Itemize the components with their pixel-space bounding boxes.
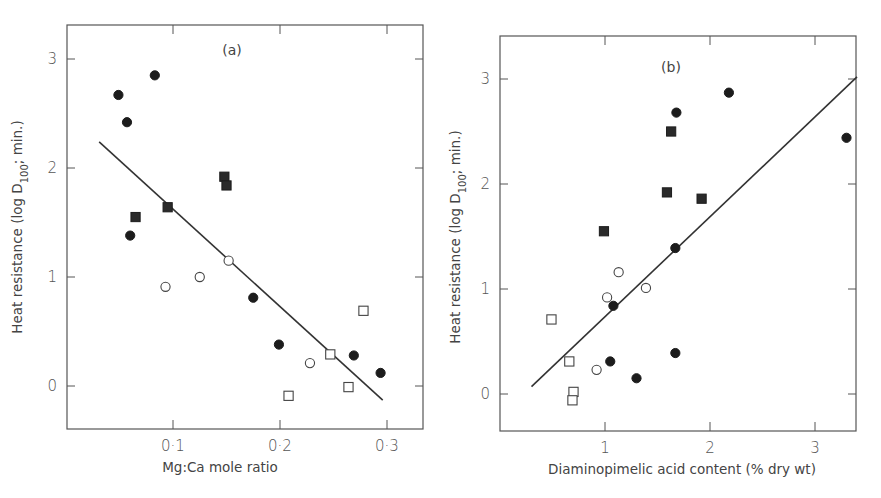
chart-panel-a: 0·10·20·30123(a)Mg:Ca mole ratioHeat res…: [9, 25, 423, 475]
open-square-marker: [284, 391, 293, 400]
y-tick-label: 3: [47, 50, 57, 68]
open-circle-marker: [224, 256, 233, 265]
filled-circle-marker: [376, 368, 385, 377]
x-tick-label: 0·2: [268, 437, 292, 455]
filled-circle-marker: [122, 118, 131, 127]
filled-circle-marker: [842, 133, 851, 142]
filled-square-marker: [662, 188, 671, 197]
open-square-marker: [565, 357, 574, 366]
plot-frame: [500, 36, 856, 431]
open-circle-marker: [614, 268, 623, 277]
filled-circle-marker: [249, 293, 258, 302]
open-square-marker: [359, 306, 368, 315]
filled-square-marker: [163, 203, 172, 212]
x-tick-label: 2: [705, 439, 715, 457]
y-tick-label: 1: [480, 280, 490, 298]
filled-circle-marker: [671, 243, 680, 252]
panel-label: (b): [661, 59, 681, 75]
y-tick-label: 0: [47, 377, 57, 395]
open-square-marker: [547, 315, 556, 324]
open-square-marker: [344, 382, 353, 391]
filled-square-marker: [131, 212, 140, 221]
chart-panel-b: 1230123(b)Diaminopimelic acid content (%…: [447, 36, 857, 477]
filled-circle-marker: [349, 351, 358, 360]
filled-circle-marker: [724, 88, 733, 97]
filled-circle-marker: [606, 357, 615, 366]
figure: 0·10·20·30123(a)Mg:Ca mole ratioHeat res…: [0, 0, 881, 498]
y-tick-label: 3: [480, 70, 490, 88]
x-axis-label: Mg:Ca mole ratio: [162, 459, 278, 475]
filled-square-marker: [599, 227, 608, 236]
filled-circle-marker: [274, 340, 283, 349]
y-axis-label: Heat resistance (log D100; min.): [9, 120, 30, 333]
y-tick-label: 2: [47, 159, 57, 177]
y-tick-label: 2: [480, 175, 490, 193]
open-square-marker: [326, 350, 335, 359]
open-circle-marker: [195, 272, 204, 281]
x-axis-label: Diaminopimelic acid content (% dry wt): [548, 461, 816, 477]
filled-square-marker: [697, 194, 706, 203]
filled-square-marker: [222, 181, 231, 190]
filled-circle-marker: [126, 231, 135, 240]
filled-circle-marker: [671, 348, 680, 357]
plot-frame: [67, 25, 423, 429]
open-circle-marker: [305, 359, 314, 368]
y-axis-label: Heat resistance (log D100; min.): [447, 130, 468, 343]
filled-circle-marker: [114, 90, 123, 99]
y-tick-label: 1: [47, 268, 57, 286]
panel-label: (a): [222, 42, 242, 58]
x-tick-label: 0·3: [375, 437, 399, 455]
open-circle-marker: [161, 282, 170, 291]
y-tick-label: 0: [480, 385, 490, 403]
filled-square-marker: [220, 172, 229, 181]
filled-circle-marker: [632, 374, 641, 383]
regression-line: [99, 142, 383, 400]
open-circle-marker: [641, 283, 650, 292]
regression-line: [532, 77, 858, 387]
filled-circle-marker: [150, 71, 159, 80]
x-tick-label: 0·1: [161, 437, 185, 455]
open-square-marker: [568, 396, 577, 405]
open-square-marker: [569, 387, 578, 396]
filled-square-marker: [667, 127, 676, 136]
open-circle-marker: [603, 293, 612, 302]
filled-circle-marker: [609, 301, 618, 310]
x-tick-label: 1: [600, 439, 610, 457]
open-circle-marker: [592, 365, 601, 374]
x-tick-label: 3: [810, 439, 820, 457]
filled-circle-marker: [672, 108, 681, 117]
